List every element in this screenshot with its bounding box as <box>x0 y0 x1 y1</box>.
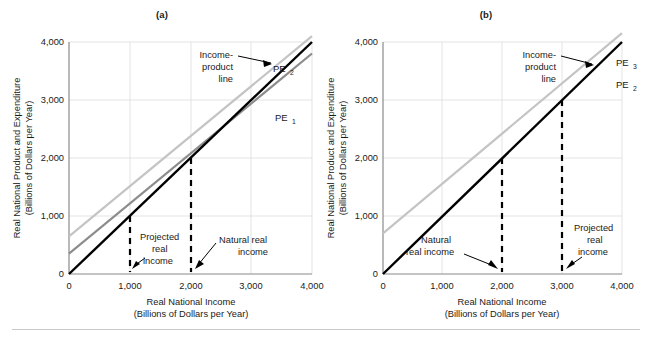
annotation-income-product-line-3: line <box>542 74 556 84</box>
annotation-projected-real-income-3: income <box>578 247 608 257</box>
annotation-projected-real-income-1: Projected <box>140 232 179 242</box>
annotation-projected-real-income-2: real <box>587 235 603 245</box>
annotation-projected-real-income-1: Projected <box>574 223 613 233</box>
series-label-pe2-sub: 2 <box>290 69 294 76</box>
annotation-arrow-income-product-line <box>238 56 272 67</box>
series-label-pe1-base: PE <box>275 112 288 123</box>
series-label-pe2: PE 2 <box>273 63 294 76</box>
series-label-pe1: PE 1 <box>275 112 296 125</box>
y-tick-2000: 2,000 <box>41 153 64 163</box>
y-tick-1000: 1,000 <box>41 211 64 221</box>
y-tick-3000: 3,000 <box>355 95 378 105</box>
y-tick-0: 0 <box>59 269 64 279</box>
series-label-pe2: PE 2 <box>616 79 637 92</box>
series-label-pe3: PE 3 <box>616 57 637 70</box>
panel-b-plot: 4,000 3,000 2,000 1,000 0 0 1,000 2,000 … <box>324 0 648 325</box>
x-tick-3000: 3,000 <box>239 281 262 291</box>
annotation-natural-real-income-1: Natural <box>421 235 451 245</box>
annotation-natural-real-income-2: real income <box>406 247 454 257</box>
x-axis-title-line1: Real National Income <box>147 297 236 307</box>
panel-b: (b) <box>324 0 648 325</box>
y-axis-title-line1: Real National Product and Expenditure <box>12 78 22 239</box>
x-axis-title-line1: Real National Income <box>458 297 547 307</box>
annotation-income-product-line-2: product <box>525 62 556 72</box>
series-label-pe2-base: PE <box>273 63 286 74</box>
annotation-income-product-line-1: Income- <box>522 50 556 60</box>
panel-a-plot: 4,000 3,000 2,000 1,000 0 0 1,000 2,000 … <box>0 0 324 325</box>
y-axis-title-line2: (Billions of Dollars per Year) <box>338 101 348 216</box>
y-tick-3000: 3,000 <box>41 95 64 105</box>
annotation-income-product-line-2: product <box>202 62 233 72</box>
annotation-projected-real-income-3: income <box>143 256 173 266</box>
annotation-income-product-line-3: line <box>219 74 233 84</box>
y-tick-1000: 1,000 <box>355 211 378 221</box>
figure-bottom-divider <box>12 329 640 330</box>
annotation-income-product-line-1: Income- <box>199 50 233 60</box>
x-tick-2000: 2,000 <box>490 281 513 291</box>
x-axis-title-line2: (Billions of Dollars per Year) <box>445 309 560 319</box>
y-axis-title-line2: (Billions of Dollars per Year) <box>24 101 34 216</box>
series-label-pe2-base: PE <box>616 79 629 90</box>
series-label-pe1-sub: 1 <box>292 118 296 125</box>
x-tick-2000: 2,000 <box>179 281 202 291</box>
panel-a: (a) <box>0 0 324 325</box>
x-tick-4000: 4,000 <box>300 281 323 291</box>
series-line-pe1 <box>69 54 312 254</box>
x-tick-3000: 3,000 <box>550 281 573 291</box>
annotation-natural-real-income-1: Natural real <box>219 235 267 245</box>
annotation-natural-real-income-2: income <box>238 247 268 257</box>
y-axis-title-line1: Real National Product and Expenditure <box>326 78 336 239</box>
x-tick-0: 0 <box>380 281 385 291</box>
figure-container: (a) <box>0 0 648 339</box>
series-label-pe3-sub: 3 <box>633 63 637 70</box>
x-tick-4000: 4,000 <box>610 281 633 291</box>
y-tick-0: 0 <box>373 269 378 279</box>
annotation-projected-real-income-2: real <box>152 244 168 254</box>
y-tick-2000: 2,000 <box>355 153 378 163</box>
y-tick-4000: 4,000 <box>41 37 64 47</box>
x-tick-1000: 1,000 <box>118 281 141 291</box>
x-tick-1000: 1,000 <box>430 281 453 291</box>
x-tick-0: 0 <box>66 281 71 291</box>
series-label-pe2-sub: 2 <box>633 85 637 92</box>
y-tick-4000: 4,000 <box>355 37 378 47</box>
series-label-pe3-base: PE <box>616 57 629 68</box>
annotation-arrow-natural-real-income <box>464 254 498 269</box>
annotation-arrow-projected-real-income <box>566 257 582 269</box>
annotation-arrow-natural-real-income <box>195 243 216 269</box>
x-axis-title-line2: (Billions of Dollars per Year) <box>134 309 249 319</box>
